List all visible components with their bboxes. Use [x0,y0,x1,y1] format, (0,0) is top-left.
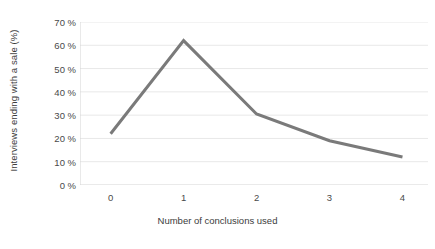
x-tick-label: 2 [254,192,259,203]
y-tick-label: 0 % [32,180,76,191]
y-axis-tick-labels: 0 %10 %20 %30 %40 %50 %60 %70 % [26,0,76,249]
y-tick-label: 30 % [32,110,76,121]
y-tick-label: 50 % [32,63,76,74]
y-axis-title-wrapper: Interviews ending with a sale (%) [2,0,24,200]
y-axis-title: Interviews ending with a sale (%) [8,29,19,171]
y-tick-label: 20 % [32,133,76,144]
plot-svg [80,22,428,185]
x-tick-label: 1 [181,192,186,203]
x-tick-label: 4 [400,192,405,203]
x-tick-label: 3 [327,192,332,203]
y-tick-label: 60 % [32,40,76,51]
x-tick-label: 0 [108,192,113,203]
gridlines [80,22,428,185]
line-chart: Interviews ending with a sale (%) 0 %10 … [0,0,435,249]
y-tick-label: 70 % [32,17,76,28]
data-line-series-1 [111,41,403,157]
y-tick-label: 40 % [32,86,76,97]
y-tick-label: 10 % [32,156,76,167]
x-axis-title: Number of conclusions used [0,215,435,226]
plot-area [80,22,428,185]
